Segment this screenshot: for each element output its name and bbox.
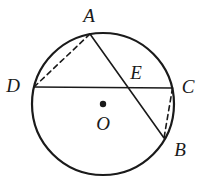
vertex-label-d: D <box>6 76 20 95</box>
chord-dc-line <box>34 87 173 88</box>
segment-ad-dashed-line <box>34 34 90 87</box>
center-label-o: O <box>96 114 110 133</box>
vertex-label-e: E <box>130 63 142 82</box>
geometry-figure: A D E C B O <box>0 0 210 187</box>
vertex-label-b: B <box>174 140 186 159</box>
center-point-dot <box>100 101 106 107</box>
vertex-label-a: A <box>83 6 95 25</box>
vertex-label-c: C <box>182 77 195 96</box>
